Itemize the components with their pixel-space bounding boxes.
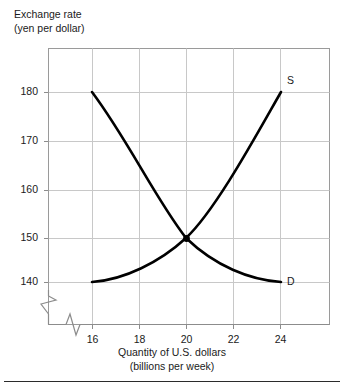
x-tick-label-20: 20 bbox=[175, 333, 199, 345]
y-tick-label-140: 140 bbox=[8, 275, 38, 287]
y-tick-label-180: 180 bbox=[8, 85, 38, 97]
y-tick-label-170: 170 bbox=[8, 134, 38, 146]
exchange-rate-chart-figure: Exchange rate (yen per dollar) bbox=[0, 0, 344, 392]
bottom-divider bbox=[4, 381, 340, 382]
y-tick-marks bbox=[44, 93, 49, 283]
x-tick-label-24: 24 bbox=[269, 333, 293, 345]
y-tick-label-160: 160 bbox=[8, 183, 38, 195]
demand-curve-label: D bbox=[287, 275, 295, 287]
supply-curve-label: S bbox=[287, 74, 294, 86]
x-axis-title-line1: Quantity of U.S. dollars bbox=[0, 346, 344, 360]
x-axis-title: Quantity of U.S. dollars (billions per w… bbox=[0, 346, 344, 373]
x-tick-label-22: 22 bbox=[222, 333, 246, 345]
x-tick-label-18: 18 bbox=[128, 333, 152, 345]
x-tick-label-16: 16 bbox=[81, 333, 105, 345]
x-tick-marks bbox=[93, 325, 281, 330]
y-tick-label-150: 150 bbox=[8, 231, 38, 243]
equilibrium-point-marker bbox=[183, 235, 190, 242]
x-axis-title-line2: (billions per week) bbox=[0, 360, 344, 374]
